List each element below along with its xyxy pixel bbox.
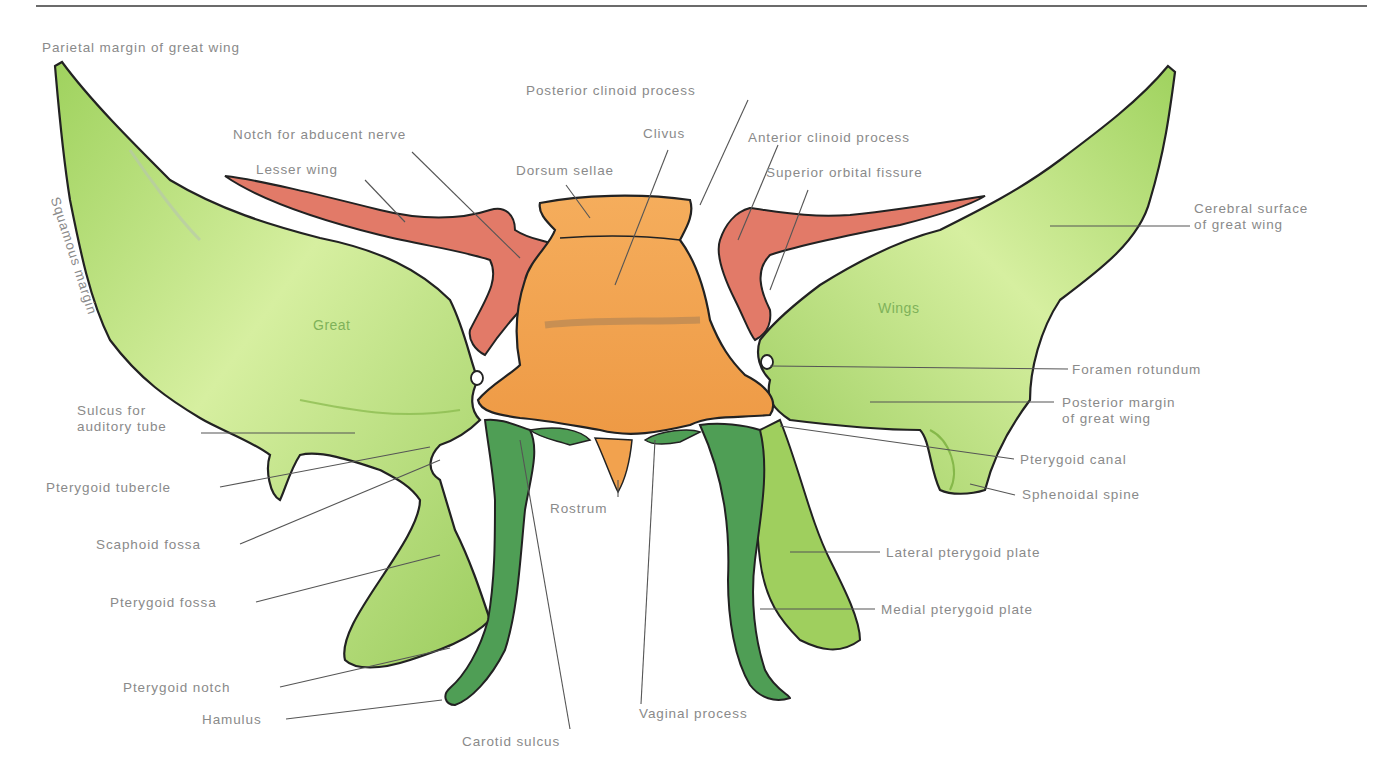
label-parietal-margin: Parietal margin of great wing — [42, 40, 240, 56]
label-anterior-clinoid-process: Anterior clinoid process — [748, 130, 910, 146]
great-inner-label: Great — [313, 317, 351, 333]
foramen-rotundum-right — [761, 355, 773, 369]
sphenoid-bone-illustration — [0, 0, 1375, 781]
wings-inner-label: Wings — [878, 300, 919, 316]
label-rostrum: Rostrum — [550, 501, 607, 517]
label-hamulus: Hamulus — [202, 712, 262, 728]
label-cerebral-surface: Cerebral surface of great wing — [1194, 201, 1308, 233]
label-sphenoidal-spine: Sphenoidal spine — [1022, 487, 1140, 503]
label-dorsum-sellae: Dorsum sellae — [516, 163, 614, 179]
label-sulcus-auditory-tube: Sulcus for auditory tube — [77, 403, 167, 435]
label-pterygoid-notch: Pterygoid notch — [123, 680, 230, 696]
label-superior-orbital-fissure: Superior orbital fissure — [766, 165, 923, 181]
label-posterior-clinoid-process: Posterior clinoid process — [526, 83, 696, 99]
label-pterygoid-fossa: Pterygoid fossa — [110, 595, 217, 611]
label-medial-pterygoid-plate: Medial pterygoid plate — [881, 602, 1033, 618]
label-notch-abducent-nerve: Notch for abducent nerve — [233, 127, 406, 143]
label-lesser-wing: Lesser wing — [256, 162, 338, 178]
foramen-rotundum-left — [471, 371, 483, 385]
label-carotid-sulcus: Carotid sulcus — [462, 734, 560, 750]
label-posterior-margin: Posterior margin of great wing — [1062, 395, 1175, 427]
label-vaginal-process: Vaginal process — [639, 706, 748, 722]
label-clivus: Clivus — [643, 126, 685, 142]
left-great-wing — [55, 62, 490, 668]
rostrum-shape — [595, 438, 632, 492]
label-scaphoid-fossa: Scaphoid fossa — [96, 537, 201, 553]
label-pterygoid-tubercle: Pterygoid tubercle — [46, 480, 171, 496]
label-foramen-rotundum: Foramen rotundum — [1072, 362, 1201, 378]
label-lateral-pterygoid-plate: Lateral pterygoid plate — [886, 545, 1040, 561]
label-pterygoid-canal: Pterygoid canal — [1020, 452, 1127, 468]
lateral-pterygoid-plate-right — [756, 420, 860, 649]
right-great-wing — [756, 66, 1175, 649]
